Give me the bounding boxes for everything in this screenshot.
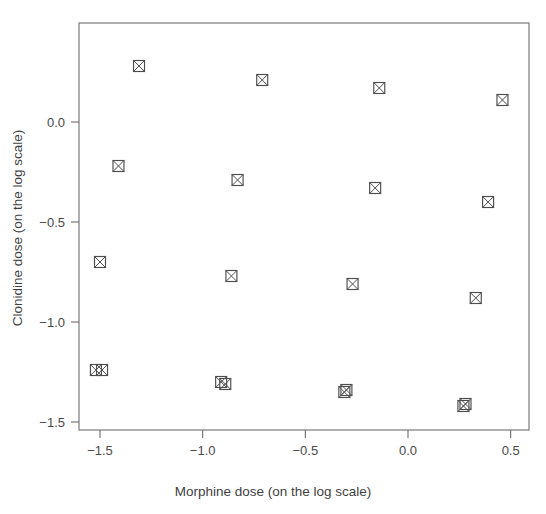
plot-box-border (79, 23, 529, 430)
y-axis-title: Clonidine dose (on the log scale) (10, 130, 25, 327)
data-point-marker (226, 271, 237, 282)
data-point-marker (134, 61, 145, 72)
x-tick-label: 0.0 (399, 443, 417, 458)
plot-frame (79, 23, 529, 430)
scatter-plot-figure: −1.5−1.0−0.50.00.5 0.0−0.5−1.0−1.5 Morph… (0, 0, 546, 514)
data-point-marker (497, 95, 508, 106)
y-tick-label: −1.0 (39, 315, 65, 330)
x-axis-ticks: −1.5−1.0−0.50.00.5 (87, 430, 520, 458)
y-tick-label: 0.0 (47, 115, 65, 130)
data-point-marker (257, 75, 268, 86)
data-point-marker (347, 279, 358, 290)
data-point-marker (232, 175, 243, 186)
data-point-marker (90, 365, 101, 376)
data-point-marker (483, 197, 494, 208)
data-point-marker (95, 257, 106, 268)
x-tick-label: −0.5 (292, 443, 318, 458)
data-point-marker (470, 293, 481, 304)
y-tick-label: −1.5 (39, 415, 65, 430)
x-axis-title: Morphine dose (on the log scale) (175, 484, 372, 499)
x-tick-label: −1.0 (190, 443, 216, 458)
y-axis-ticks: 0.0−0.5−1.0−1.5 (39, 115, 79, 430)
x-tick-label: 0.5 (502, 443, 520, 458)
plot-canvas: −1.5−1.0−0.50.00.5 0.0−0.5−1.0−1.5 Morph… (0, 0, 546, 514)
data-point-layer (90, 61, 508, 412)
data-point-marker (97, 365, 108, 376)
data-point-marker (113, 161, 124, 172)
data-point-marker (370, 183, 381, 194)
data-point-marker (374, 83, 385, 94)
x-tick-label: −1.5 (87, 443, 113, 458)
y-tick-label: −0.5 (39, 215, 65, 230)
